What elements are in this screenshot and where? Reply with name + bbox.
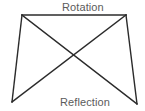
diagonal-top-left-to-bottom-right-line bbox=[22, 15, 137, 104]
diagonal-top-right-to-bottom-left-line bbox=[12, 15, 126, 102]
left-edge-line bbox=[12, 15, 22, 102]
reflection-label: Reflection bbox=[59, 96, 111, 108]
right-edge-line bbox=[126, 15, 137, 104]
trapezoid-diagram-svg bbox=[0, 0, 145, 111]
geometry-diagram: Rotation Reflection bbox=[0, 0, 145, 111]
rotation-label: Rotation bbox=[61, 1, 105, 13]
